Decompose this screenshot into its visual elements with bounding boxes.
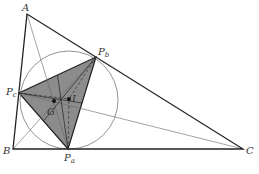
geometry-diagram: A B C Pb Pc Pa G I [0, 0, 259, 174]
label-g: G [47, 106, 55, 117]
label-b: B [2, 145, 10, 156]
label-pa: Pa [63, 152, 75, 165]
centroid-point [52, 99, 56, 103]
label-c: C [246, 145, 254, 156]
label-pb: Pb [97, 46, 110, 59]
incenter-point [67, 97, 71, 101]
cevian-b-pb [13, 57, 96, 149]
label-pc: Pc [5, 86, 17, 99]
label-a: A [21, 2, 29, 13]
